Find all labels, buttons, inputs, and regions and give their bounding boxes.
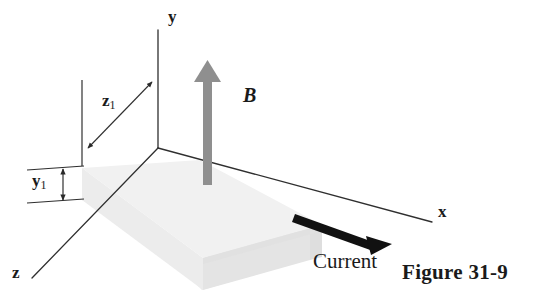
y1-upper-extension-line bbox=[27, 166, 84, 170]
b-arrow-head bbox=[194, 60, 221, 82]
z1-dimension-arrow bbox=[88, 82, 152, 148]
y1-dimension-label: y1 bbox=[32, 172, 47, 191]
z1-subscript: 1 bbox=[110, 98, 116, 112]
y1-subscript: 1 bbox=[41, 178, 47, 192]
magnetic-field-label: B bbox=[243, 85, 256, 105]
b-arrow-shaft bbox=[203, 78, 212, 185]
figure-caption: Figure 31-9 bbox=[402, 262, 508, 283]
x-axis-label: x bbox=[438, 203, 447, 220]
z1-dimension bbox=[82, 80, 152, 166]
figure-31-9: y x z z1 y1 B Current Figure 31-9 bbox=[0, 0, 547, 305]
current-label: Current bbox=[313, 251, 377, 272]
z1-base: z bbox=[102, 91, 110, 110]
z1-dimension-label: z1 bbox=[102, 92, 116, 111]
y1-lower-extension-line bbox=[27, 199, 84, 203]
y-axis-label: y bbox=[168, 8, 177, 25]
z-axis-label: z bbox=[12, 264, 20, 281]
conducting-slab bbox=[82, 160, 322, 290]
y1-base: y bbox=[32, 171, 41, 190]
